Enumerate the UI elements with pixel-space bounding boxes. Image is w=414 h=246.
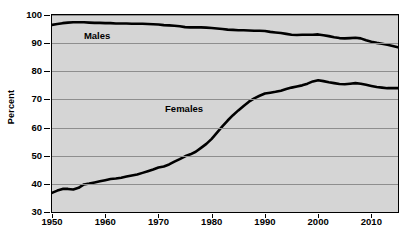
y-tick-label: 80: [2, 66, 42, 75]
y-axis-ticks: 10090807060504030: [0, 0, 48, 246]
y-tick-mark: [44, 99, 50, 100]
series-line-females: [52, 80, 398, 193]
y-tick-mark: [44, 156, 50, 157]
series-label-males: Males: [84, 30, 110, 41]
x-tick-mark: [158, 214, 159, 218]
y-tick-mark: [44, 128, 50, 129]
gridline: [52, 184, 398, 185]
y-tick-label: 30: [2, 207, 42, 216]
y-tick-mark: [44, 184, 50, 185]
x-tick-mark: [318, 214, 319, 218]
y-tick-mark: [44, 212, 50, 213]
y-tick-mark: [44, 15, 50, 16]
gridline: [52, 156, 398, 157]
chart-container: Percent 10090807060504030 Males Females …: [0, 0, 414, 246]
y-tick-label: 60: [2, 123, 42, 132]
y-tick-mark: [44, 71, 50, 72]
x-tick-mark: [105, 214, 106, 218]
x-tick-mark: [371, 214, 372, 218]
y-tick-label: 40: [2, 179, 42, 188]
y-tick-label: 70: [2, 94, 42, 103]
gridline: [52, 99, 398, 100]
gridline: [52, 71, 398, 72]
y-tick-label: 100: [2, 10, 42, 19]
x-tick-mark: [212, 214, 213, 218]
y-tick-mark: [44, 43, 50, 44]
gridline: [52, 15, 398, 16]
series-lines: [52, 15, 398, 212]
gridline: [52, 43, 398, 44]
gridline: [52, 128, 398, 129]
plot-area: Males Females: [51, 14, 399, 213]
x-tick-mark: [52, 214, 53, 218]
y-tick-label: 90: [2, 38, 42, 47]
series-label-females: Females: [165, 103, 203, 114]
x-tick-mark: [265, 214, 266, 218]
y-tick-label: 50: [2, 151, 42, 160]
